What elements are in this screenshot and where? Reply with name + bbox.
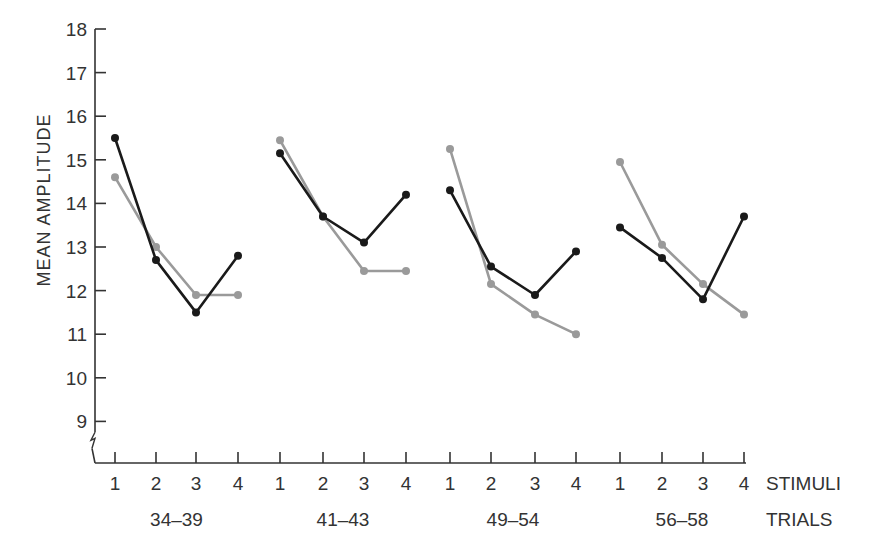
stimulus-tick-label: 1 (445, 473, 456, 494)
stimulus-tick-label: 1 (110, 473, 121, 494)
stimulus-tick-label: 3 (698, 473, 709, 494)
data-point-gray (740, 311, 748, 319)
x-axis-stimuli-label: STIMULI (766, 473, 841, 494)
y-axis: 9101112131415161718 (66, 19, 106, 463)
trials-group-label: 49–54 (487, 509, 540, 530)
stimulus-tick-label: 4 (233, 473, 244, 494)
data-point-black (699, 295, 707, 303)
data-point-black (111, 134, 119, 142)
data-point-gray (616, 158, 624, 166)
stimulus-tick-label: 1 (615, 473, 626, 494)
series-line-gray (620, 162, 744, 315)
y-tick-label: 12 (66, 281, 87, 302)
data-point-gray (402, 267, 410, 275)
data-point-gray (446, 145, 454, 153)
data-point-black (276, 149, 284, 157)
x-axis: 123434–39123441–43123449–54123456–58 (95, 452, 750, 530)
data-point-black (234, 252, 242, 260)
axis-break-icon (91, 432, 95, 448)
y-tick-label: 17 (66, 63, 87, 84)
data-point-gray (276, 136, 284, 144)
data-point-gray (192, 291, 200, 299)
series-line-gray (280, 140, 406, 271)
data-point-gray (234, 291, 242, 299)
data-point-black (360, 239, 368, 247)
trials-group-label: 34–39 (150, 509, 203, 530)
line-chart: 9101112131415161718 123434–39123441–4312… (0, 0, 877, 555)
data-point-gray (572, 330, 580, 338)
data-point-black (616, 223, 624, 231)
stimulus-tick-label: 3 (191, 473, 202, 494)
series-line-black (620, 217, 744, 300)
data-point-gray (360, 267, 368, 275)
data-point-black (487, 263, 495, 271)
stimulus-tick-label: 2 (318, 473, 329, 494)
y-tick-label: 14 (66, 193, 88, 214)
data-point-black (531, 291, 539, 299)
data-point-gray (487, 280, 495, 288)
y-tick-label: 11 (67, 324, 87, 345)
series-line-black (115, 138, 238, 312)
y-tick-label: 18 (66, 19, 87, 40)
stimulus-tick-label: 3 (359, 473, 370, 494)
data-point-black (152, 256, 160, 264)
y-tick-label: 10 (66, 368, 87, 389)
y-tick-label: 13 (66, 237, 87, 258)
y-axis-title: MEAN AMPLITUDE (34, 113, 54, 286)
trials-group-label: 41–43 (317, 509, 370, 530)
stimulus-tick-label: 2 (657, 473, 668, 494)
stimulus-tick-label: 3 (530, 473, 541, 494)
data-point-black (658, 254, 666, 262)
y-tick-label: 9 (76, 411, 87, 432)
data-point-black (192, 308, 200, 316)
stimulus-tick-label: 4 (739, 473, 750, 494)
data-point-gray (658, 241, 666, 249)
stimulus-tick-label: 4 (571, 473, 582, 494)
data-point-gray (531, 311, 539, 319)
data-point-black (572, 247, 580, 255)
stimulus-tick-label: 2 (486, 473, 497, 494)
data-point-gray (699, 280, 707, 288)
trials-group-label: 56–58 (656, 509, 709, 530)
series-line-black (280, 153, 406, 242)
series-line-gray (450, 149, 576, 334)
stimulus-tick-label: 1 (275, 473, 286, 494)
x-axis-trials-label: TRIALS (766, 509, 833, 530)
series-line-black (450, 190, 576, 295)
data-point-black (319, 213, 327, 221)
data-point-black (402, 191, 410, 199)
stimulus-tick-label: 2 (151, 473, 162, 494)
series-layer (111, 134, 748, 338)
y-tick-label: 16 (66, 106, 87, 127)
data-point-black (740, 213, 748, 221)
y-tick-label: 15 (66, 150, 87, 171)
data-point-black (446, 186, 454, 194)
data-point-gray (111, 173, 119, 181)
stimulus-tick-label: 4 (401, 473, 412, 494)
